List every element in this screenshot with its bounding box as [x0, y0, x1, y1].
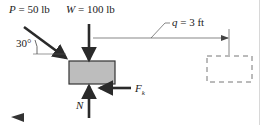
block [69, 61, 115, 84]
label-w-value: = 100 lb [75, 3, 115, 15]
diagram-canvas [0, 0, 264, 125]
back-arrow-icon[interactable] [11, 113, 24, 122]
label-p: P = 50 lb [9, 4, 50, 15]
label-n: N [76, 100, 83, 111]
label-fk: Fk [135, 83, 145, 97]
displaced-block-outline [207, 56, 252, 82]
free-body-diagram: P = 50 lb W = 100 lb 30° q = 3 ft N Fk [0, 0, 264, 125]
label-fk-symbol: F [135, 82, 142, 94]
label-q: q = 3 ft [172, 17, 204, 28]
right-divider [259, 0, 260, 125]
label-fk-subscript: k [142, 89, 145, 97]
label-angle: 30° [16, 38, 31, 49]
label-w-symbol: W [66, 3, 75, 15]
q-leader-line [151, 23, 170, 38]
label-q-value: = 3 ft [178, 16, 205, 28]
label-p-value: = 50 lb [16, 3, 50, 15]
label-p-symbol: P [9, 3, 16, 15]
angle-arc [35, 40, 37, 54]
label-w: W = 100 lb [66, 4, 115, 15]
